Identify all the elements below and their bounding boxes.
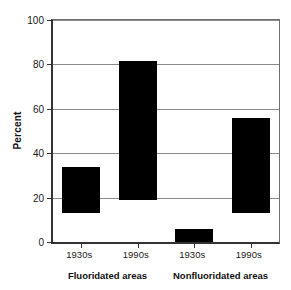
y-axis-title: Percent [8,90,26,170]
x-tick-mark [194,243,195,248]
gridline [53,20,279,21]
x-tick-label: 1930s [66,249,92,260]
gridline [53,64,279,65]
bar [232,118,270,213]
bar [175,229,213,242]
y-tick-label: 60 [33,103,44,114]
y-tick-mark [47,64,52,65]
plot-area: 020406080100 [51,19,280,244]
x-tick-mark [251,243,252,248]
y-tick-mark [47,242,52,243]
bar [119,61,157,200]
y-tick-mark [47,153,52,154]
y-tick-label: 0 [38,237,44,248]
y-tick-label: 100 [27,15,44,26]
y-tick-mark [47,198,52,199]
y-tick-label: 40 [33,148,44,159]
x-tick-label: 1930s [179,249,205,260]
x-tick-label: 1990s [123,249,149,260]
x-tick-label: 1990s [236,249,262,260]
bar [62,167,100,214]
group-label: Fluoridated areas [68,270,147,281]
y-tick-mark [47,109,52,110]
group-label: Nonfluoridated areas [173,270,268,281]
y-axis-title-text: Percent [12,111,23,149]
gridline [53,109,279,110]
x-tick-mark [81,243,82,248]
bar-chart: Percent 020406080100 1930s1990s1930s1990… [0,0,291,290]
group-labels: Fluoridated areasNonfluoridated areas [51,270,277,286]
x-axis-tick-labels: 1930s1990s1930s1990s [51,249,277,263]
x-tick-mark [138,243,139,248]
y-tick-label: 80 [33,59,44,70]
y-tick-mark [47,20,52,21]
y-tick-label: 20 [33,192,44,203]
